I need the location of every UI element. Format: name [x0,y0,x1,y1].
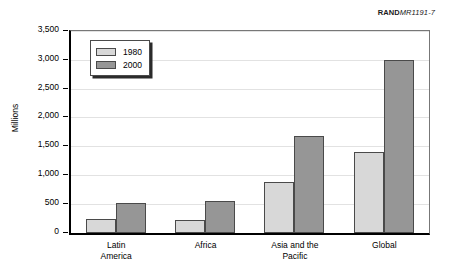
rand-document-code: RANDMR1191-7 [378,8,435,17]
bar-1980-latin-america [86,219,116,233]
y-axis-tick-label: 1,000 [7,168,59,178]
document-number: MR1191-7 [400,8,435,17]
x-axis-category-africa: Africa [161,240,250,251]
y-axis-tick-label: 0 [7,226,59,236]
legend-swatch-2000 [96,61,116,69]
x-axis-label-line: Pacific [250,251,339,262]
legend-label-2000: 2000 [123,60,142,70]
legend-item-2000: 2000 [96,58,142,71]
bar-2000-latin-america [116,203,146,234]
x-axis-label-line: Asia and the [250,240,339,251]
rand-logo-text: RAND [378,8,400,17]
bar-1980-asia-and-the-pacific [264,182,294,233]
y-axis-tick-label: 500 [7,197,59,207]
y-axis-tick-mark [63,145,68,146]
bar-2000-africa [205,201,235,233]
y-axis-tick-mark [63,116,68,117]
y-axis-tick-label: 3,500 [7,24,59,34]
y-axis-tick-mark [63,59,68,60]
y-axis-tick-label: 3,000 [7,53,59,63]
bar-2000-global [384,60,414,233]
y-axis-tick-label: 1,500 [7,139,59,149]
x-axis-category-asia-and-the-pacific: Asia and thePacific [250,240,339,262]
x-axis-category-global: Global [340,240,429,251]
legend-swatch-1980 [96,48,116,56]
bar-1980-global [354,152,384,233]
y-axis-tick-mark [63,232,68,233]
bar-1980-africa [175,220,205,233]
x-axis-label-line: America [72,251,161,262]
y-axis-tick-mark [63,174,68,175]
figure-bar-chart: RANDMR1191-7 Millions 05001,0001,5002,00… [0,0,449,275]
chart-legend: 19802000 [90,40,150,76]
y-axis-tick-label: 2,000 [7,110,59,120]
x-axis-label-line: Africa [161,240,250,251]
x-axis-label-line: Global [340,240,429,251]
bar-2000-asia-and-the-pacific [294,136,324,233]
legend-label-1980: 1980 [123,47,142,57]
y-axis-tick-mark [63,88,68,89]
y-axis-tick-mark [63,30,68,31]
legend-item-1980: 1980 [96,45,142,58]
x-axis-label-line: Latin [72,240,161,251]
y-axis-tick-mark [63,203,68,204]
y-axis-tick-label: 2,500 [7,82,59,92]
x-axis-category-latin-america: LatinAmerica [72,240,161,262]
